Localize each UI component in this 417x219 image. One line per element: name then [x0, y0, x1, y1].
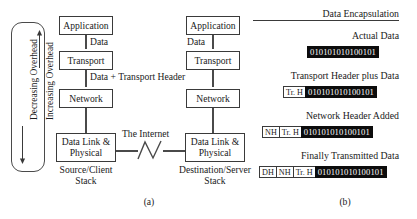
payload-cell: 010101010100101: [307, 46, 379, 58]
dest-edge-label-data: Data: [186, 36, 206, 47]
dest-layer-network: Network: [186, 89, 240, 108]
decreasing-overhead-label: Decreasing Overhead: [29, 39, 39, 120]
dest-layer-application: Application: [186, 16, 240, 35]
encapsulation-title: Data Encapsulation: [253, 8, 399, 21]
payload-cell: 010101010100101: [301, 126, 373, 138]
source-layer-network: Network: [59, 89, 113, 108]
dest-layer-datalink-physical: Data Link & Physical: [185, 133, 245, 162]
dest-stack-caption: Destination/Server Stack: [166, 164, 264, 186]
dest-stack-caption-line1: Destination/Server: [166, 164, 264, 175]
encapsulation-row-finally-transmitted: DH NH Tr. H 010101010100101: [259, 166, 387, 178]
payload-cell: 010101010100101: [305, 86, 377, 98]
internet-link-left-segment: [116, 150, 138, 152]
source-edge-label-data-plus-transport-header: Data + Transport Header: [89, 71, 186, 82]
encapsulation-caption-network-header: Network Header Added: [249, 110, 399, 121]
header-cell-datalink: DH: [259, 166, 277, 178]
panel-b-label: (b): [330, 196, 360, 207]
encapsulation-caption-transport-header: Transport Header plus Data: [249, 70, 399, 81]
header-cell-transport: Tr. H: [283, 86, 306, 98]
panel-a-label: (a): [134, 196, 164, 207]
header-cell-transport: Tr. H: [293, 166, 316, 178]
dest-connector-transport-network: [212, 70, 214, 87]
source-connector-transport-network: [85, 70, 87, 87]
source-edge-label-data: Data: [89, 36, 109, 47]
source-datalink-line1: Data Link &: [62, 137, 111, 148]
encapsulation-caption-finally-transmitted: Finally Transmitted Data: [249, 150, 399, 161]
internet-link-right-segment: [163, 150, 186, 152]
dest-datalink-line2: Physical: [191, 148, 240, 159]
encapsulation-row-transport-header: Tr. H 010101010100101: [283, 86, 377, 98]
source-layer-transport: Transport: [59, 51, 113, 70]
source-layer-application: Application: [59, 16, 113, 35]
internet-squiggle-icon: [137, 139, 163, 161]
dest-connector-network-datalink: [212, 108, 214, 133]
encapsulation-row-network-header: NH Tr. H 010101010100101: [262, 126, 373, 138]
dest-layer-transport: Transport: [186, 51, 240, 70]
source-connector-network-datalink: [85, 108, 87, 133]
dest-connector-app-transport: [212, 35, 214, 49]
dest-datalink-line1: Data Link &: [191, 137, 240, 148]
source-layer-datalink-physical: Data Link & Physical: [56, 133, 116, 162]
source-stack-caption-line2: Stack: [46, 175, 126, 186]
decreasing-overhead-arrow-icon: [18, 126, 27, 164]
source-datalink-line2: Physical: [62, 148, 111, 159]
header-cell-network: NH: [262, 126, 280, 138]
payload-cell: 010101010100101: [315, 166, 387, 178]
header-cell-transport: Tr. H: [279, 126, 302, 138]
network-encapsulation-figure: Decreasing Overhead Increasing Overhead …: [0, 0, 417, 219]
source-stack-caption-line1: Source/Client: [46, 164, 126, 175]
internet-label: The Internet: [122, 128, 169, 139]
increasing-overhead-label: Increasing Overhead: [45, 42, 55, 120]
encapsulation-caption-actual-data: Actual Data: [249, 30, 399, 41]
source-connector-app-transport: [85, 35, 87, 49]
dest-stack-caption-line2: Stack: [166, 175, 264, 186]
source-stack-caption: Source/Client Stack: [46, 164, 126, 186]
header-cell-network: NH: [276, 166, 294, 178]
encapsulation-row-actual-data: 010101010100101: [307, 46, 379, 58]
